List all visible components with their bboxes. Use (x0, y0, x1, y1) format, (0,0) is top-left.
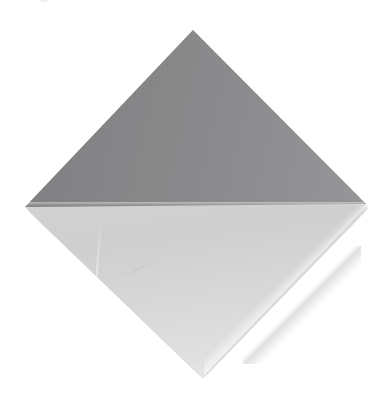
photo-canvas (0, 0, 391, 394)
folded-napkin (0, 0, 391, 394)
napkin-layered-edge-corner (243, 246, 361, 364)
